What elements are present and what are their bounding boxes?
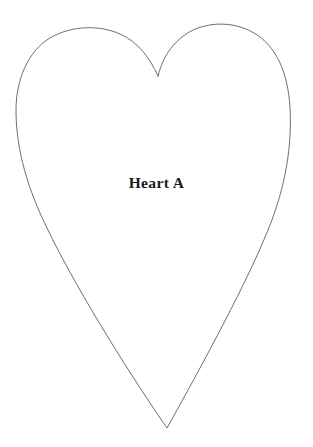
heart-label: Heart A (0, 174, 313, 192)
heart-template-canvas (0, 0, 313, 447)
template-page: Heart A (0, 0, 313, 447)
heart-outline-shape (16, 24, 290, 428)
